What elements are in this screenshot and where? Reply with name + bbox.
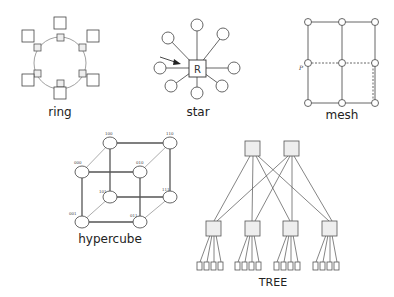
ring-diagram bbox=[22, 17, 99, 99]
ring-label: ring bbox=[48, 105, 72, 119]
svg-text:111: 111 bbox=[162, 187, 170, 192]
svg-text:101: 101 bbox=[99, 189, 107, 194]
hypercube-label: hypercube bbox=[78, 232, 142, 246]
svg-text:001: 001 bbox=[69, 211, 77, 216]
svg-text:110: 110 bbox=[166, 131, 174, 136]
star-label: star bbox=[186, 105, 209, 119]
mesh-diagram: P bbox=[298, 19, 379, 107]
tree-label: TREE bbox=[259, 276, 287, 289]
svg-text:011: 011 bbox=[130, 213, 138, 218]
star-center-node: R bbox=[194, 64, 201, 75]
svg-text:P: P bbox=[298, 64, 304, 71]
tree-diagram bbox=[197, 141, 339, 270]
svg-text:010: 010 bbox=[136, 160, 144, 165]
mesh-label: mesh bbox=[326, 108, 359, 122]
svg-text:100: 100 bbox=[105, 131, 113, 136]
star-diagram: R bbox=[154, 19, 240, 99]
topology-figure: R P bbox=[0, 0, 394, 297]
hypercube-diagram: 100 110 000 010 101 111 001 011 bbox=[69, 131, 177, 228]
svg-text:000: 000 bbox=[74, 160, 82, 165]
